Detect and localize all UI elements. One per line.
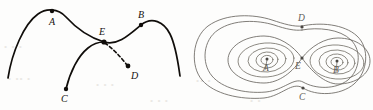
label-b-left: B	[138, 9, 144, 20]
svg-text:• • •: • • •	[4, 42, 23, 52]
left-dashed-branch	[105, 43, 127, 65]
point-e-marker	[101, 39, 106, 44]
left-panel: A B C D E	[8, 9, 180, 104]
label-e-right: E	[294, 61, 301, 71]
point-a-marker	[50, 9, 54, 13]
center-b-marker	[336, 60, 339, 63]
label-e-left: E	[98, 26, 105, 37]
label-b-right: B	[333, 65, 339, 75]
center-a-marker	[266, 58, 269, 61]
svg-text:• •: • •	[250, 96, 262, 106]
svg-text:• • •: • • •	[96, 80, 115, 90]
svg-text:• •• •: • •• •	[8, 74, 31, 84]
point-b-marker	[139, 23, 143, 27]
figure-canvas: • • • • •• • • • • •• • • • • • • A B C	[0, 0, 373, 110]
svg-text:• • •: • • •	[150, 96, 169, 106]
point-c-right-marker	[301, 86, 304, 89]
label-d-left: D	[130, 70, 139, 81]
label-c-left: C	[61, 93, 68, 104]
label-a-right: A	[262, 63, 269, 73]
point-d-right-marker	[300, 25, 303, 28]
label-d-right: D	[297, 13, 305, 23]
label-a-left: A	[48, 16, 56, 27]
svg-text:•• •: •• •	[196, 76, 212, 86]
point-d-marker	[126, 64, 131, 69]
right-panel: A B C D E	[194, 13, 370, 102]
right-outer-orbit-1	[194, 16, 365, 99]
point-c-marker	[64, 87, 68, 91]
saddle-e-marker	[300, 56, 303, 59]
figure-root: • • • • •• • • • • •• • • • • • • A B C	[0, 0, 373, 110]
label-c-right: C	[299, 92, 306, 102]
